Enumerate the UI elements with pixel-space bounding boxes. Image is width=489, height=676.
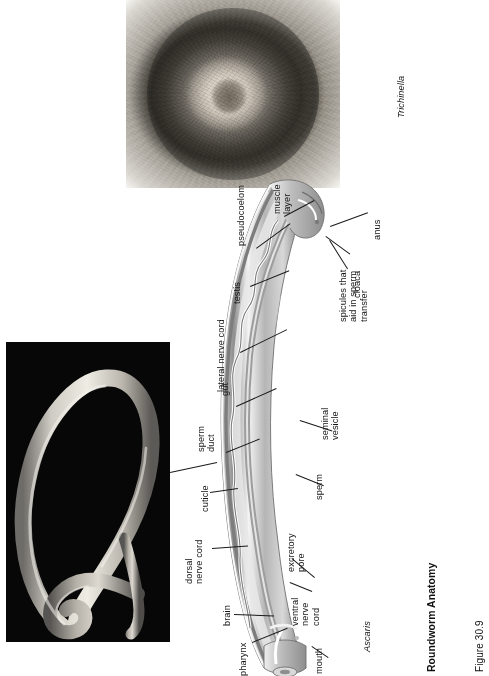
label-brain: brain [222, 605, 232, 626]
label-lateral-nerve-cord: lateral nerve cord [216, 319, 226, 392]
label-cuticle: cuticle [200, 485, 210, 512]
label-seminal-vesicle: seminal vesicle [320, 408, 341, 440]
ascaris-species-label: Ascaris [362, 621, 372, 652]
label-testis: testis [232, 282, 242, 304]
caption-number: Figure 30.9 [474, 563, 486, 672]
label-gut: gut [220, 383, 230, 396]
trichinella-species-label: Trichinella [396, 76, 406, 118]
label-pseudocoelom: pseudocoelom [236, 185, 246, 246]
mouth-aperture [280, 670, 290, 674]
trichinella-micrograph [126, 0, 340, 188]
label-anus: anus [372, 220, 382, 240]
figure-caption: Roundworm Anatomy Figure 30.9 [390, 563, 489, 672]
label-excretory-pore: excretory pore [286, 533, 307, 572]
label-mouth: mouth [314, 648, 324, 674]
ascaris-photograph [6, 342, 170, 642]
label-muscle-layer: muscle layer [272, 184, 293, 214]
label-sperm-duct: sperm duct [196, 426, 217, 452]
ascaris-worm-image [6, 342, 170, 642]
micrograph-vignette [126, 0, 340, 188]
anus-opening [315, 220, 319, 224]
label-dorsal-nerve-cord: dorsal nerve cord [184, 540, 205, 584]
caption-title: Roundworm Anatomy [426, 563, 438, 672]
label-pharynx: pharynx [238, 643, 248, 676]
label-sperm: sperm [314, 474, 324, 500]
label-spicules: spicules that aid in sperm transfer [338, 270, 369, 322]
excretory-pore-opening [295, 636, 299, 640]
label-ventral-nerve-cord: ventral nerve cord [290, 598, 321, 626]
